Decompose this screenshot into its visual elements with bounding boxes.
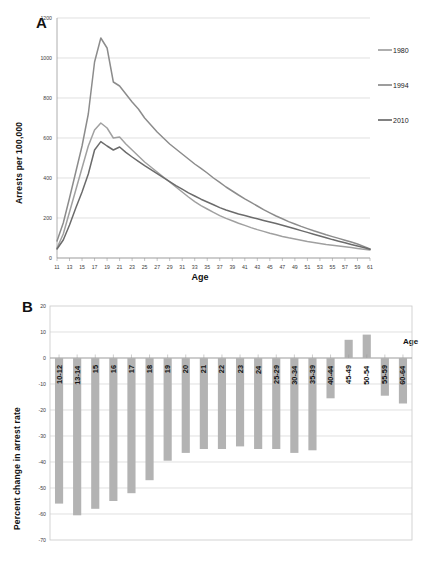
panel-a-x-tick: 57 <box>342 264 348 270</box>
panel-b-y-tick: -60 <box>39 511 47 517</box>
panel-b-y-tick: -40 <box>39 459 47 465</box>
panel-a-x-tick: 19 <box>104 264 110 270</box>
legend-label-1994: 1994 <box>393 82 409 89</box>
panel-a-y-tick: 800 <box>43 95 52 101</box>
panel-b-x-tick-21: 21 <box>199 365 208 373</box>
panel-a-x-tick: 41 <box>242 264 248 270</box>
panel-b-x-tick-50-54: 50-54 <box>362 365 371 385</box>
panel-a-x-tick: 15 <box>79 264 85 270</box>
bar-50-54 <box>363 335 371 358</box>
panel-b-x-tick-17: 17 <box>127 365 136 373</box>
panel-a-x-tick: 51 <box>305 264 311 270</box>
panel-b-x-tick-19: 19 <box>163 365 172 373</box>
panel-a-x-tick: 43 <box>254 264 260 270</box>
panel-a-x-tick: 21 <box>117 264 123 270</box>
panel-b-x-tick-16: 16 <box>109 365 118 373</box>
panel-a-x-tick: 29 <box>167 264 173 270</box>
panel-b-x-tick-24: 24 <box>254 365 263 374</box>
legend-label-1980: 1980 <box>393 47 409 54</box>
panel-b-y-tick: -20 <box>39 407 47 413</box>
panel-b-y-tick: 20 <box>40 303 46 309</box>
panel-a-x-tick: 25 <box>142 264 148 270</box>
panel-a-x-tick: 27 <box>154 264 160 270</box>
panel-a-x-tick: 55 <box>330 264 336 270</box>
panel-a-x-tick: 33 <box>192 264 198 270</box>
panel-b-plot: 20100-10-20-30-40-50-60-7010-1213-141516… <box>0 292 440 562</box>
panel-a-x-tick: 59 <box>355 264 361 270</box>
panel-a-x-tick: 39 <box>229 264 235 270</box>
panel-b-x-tick-18: 18 <box>145 365 154 373</box>
bar-16 <box>109 358 117 501</box>
panel-b-y-tick: -50 <box>39 485 47 491</box>
panel-b-y-tick: 0 <box>43 355 46 361</box>
panel-b-y-tick: -70 <box>39 537 47 543</box>
panel-a-x-tick: 11 <box>54 264 59 270</box>
panel-a-x-tick: 45 <box>267 264 273 270</box>
panel-b-bar-chart: B Percent change in arrest rate Age 2010… <box>0 292 440 562</box>
panel-a-x-tick: 61 <box>367 264 373 270</box>
panel-a-x-tick: 13 <box>67 264 73 270</box>
panel-a-y-tick: 600 <box>43 135 52 141</box>
panel-a-plot: 0200400600800100012001113151719212325272… <box>0 0 440 292</box>
panel-b-x-tick-60-64: 60-64 <box>398 365 407 385</box>
panel-b-x-tick-35-39: 35-39 <box>308 365 317 384</box>
panel-a-x-tick: 49 <box>292 264 298 270</box>
panel-b-x-tick-15: 15 <box>91 365 100 373</box>
panel-a-x-tick: 23 <box>129 264 135 270</box>
panel-b-y-tick: -10 <box>39 381 47 387</box>
panel-b-y-tick: 10 <box>40 329 46 335</box>
panel-a-y-tick: 0 <box>49 255 52 261</box>
panel-b-y-tick: -30 <box>39 433 47 439</box>
figure-container: A Arrests per 100,000 Age 02004006008001… <box>0 0 440 562</box>
panel-b-x-tick-40-44: 40-44 <box>326 365 335 385</box>
bar-18 <box>145 358 153 480</box>
panel-a-y-tick: 200 <box>43 215 52 221</box>
panel-a-line-chart: A Arrests per 100,000 Age 02004006008001… <box>0 0 440 292</box>
panel-b-x-tick-25-29: 25-29 <box>272 365 281 384</box>
panel-b-x-tick-55-59: 55-59 <box>380 365 389 384</box>
panel-a-y-tick: 1000 <box>40 55 52 61</box>
panel-b-x-tick-13-14: 13-14 <box>73 365 82 385</box>
bar-15 <box>91 358 99 509</box>
panel-a-x-tick: 17 <box>92 264 98 270</box>
panel-a-x-tick: 37 <box>217 264 223 270</box>
panel-b-x-tick-30-34: 30-34 <box>290 365 299 385</box>
panel-b-x-tick-20: 20 <box>181 365 190 373</box>
panel-a-y-tick: 400 <box>43 175 52 181</box>
panel-a-x-tick: 35 <box>204 264 210 270</box>
panel-a-x-tick: 47 <box>279 264 285 270</box>
panel-a-line-1980 <box>57 123 370 250</box>
panel-b-x-tick-23: 23 <box>236 365 245 373</box>
panel-b-x-tick-45-49: 45-49 <box>344 365 353 384</box>
panel-a-y-tick: 1200 <box>40 15 52 21</box>
legend-label-2010: 2010 <box>393 117 409 124</box>
bar-17 <box>127 358 135 493</box>
panel-a-x-tick: 53 <box>317 264 323 270</box>
panel-b-x-tick-22: 22 <box>217 365 226 373</box>
panel-a-x-tick: 31 <box>179 264 185 270</box>
panel-b-x-tick-10-12: 10-12 <box>55 365 64 384</box>
